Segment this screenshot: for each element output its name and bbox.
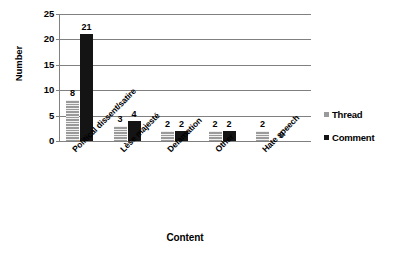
y-axis-tick-label: 10: [28, 85, 54, 95]
bar-value-label: 2: [161, 120, 174, 129]
bar-group: 20: [256, 14, 283, 141]
bar-value-label: 21: [80, 23, 93, 32]
legend-entry-thread[interactable]: Thread: [324, 110, 400, 120]
y-axis-tick-mark: [56, 65, 60, 66]
bar-value-label: 2: [256, 120, 269, 129]
chart-legend: ThreadComment: [324, 110, 400, 155]
y-axis-tick-mark: [56, 39, 60, 40]
y-axis-tick-label: 20: [28, 35, 54, 45]
bar-chart-figure: Number 0510152025 82134222220 Political …: [0, 0, 401, 265]
y-axis-tick-labels: 0510152025: [28, 8, 54, 142]
legend-swatch-icon: [324, 112, 329, 117]
legend-label: Thread: [332, 110, 362, 120]
y-axis-tick-mark: [56, 90, 60, 91]
bar-thread[interactable]: [66, 100, 79, 141]
y-axis-tick-mark: [56, 141, 60, 142]
y-axis-tick-label: 25: [28, 9, 54, 19]
y-axis-tick-label: 5: [28, 111, 54, 121]
bar-group: 22: [209, 14, 236, 141]
y-axis-spine: [59, 14, 60, 141]
bar-group: 821: [66, 14, 93, 141]
bar-group: 34: [114, 14, 141, 141]
bar-value-label: 8: [66, 89, 79, 98]
bar-group: 22: [161, 14, 188, 141]
bar-value-label: 4: [128, 110, 141, 119]
bar-value-label: 2: [223, 120, 236, 129]
bar-value-label: 2: [209, 120, 222, 129]
legend-swatch-icon: [324, 135, 329, 140]
y-axis-tick-label: 15: [28, 60, 54, 70]
y-axis-tick-mark: [56, 14, 60, 15]
y-axis-tick-label: 0: [28, 136, 54, 146]
y-axis-tick-mark: [56, 116, 60, 117]
y-axis-title: Number: [13, 29, 24, 99]
legend-label: Comment: [332, 133, 374, 143]
bar-value-label: 3: [114, 115, 127, 124]
legend-entry-comment[interactable]: Comment: [324, 133, 400, 143]
x-axis-title: Content: [59, 232, 311, 243]
